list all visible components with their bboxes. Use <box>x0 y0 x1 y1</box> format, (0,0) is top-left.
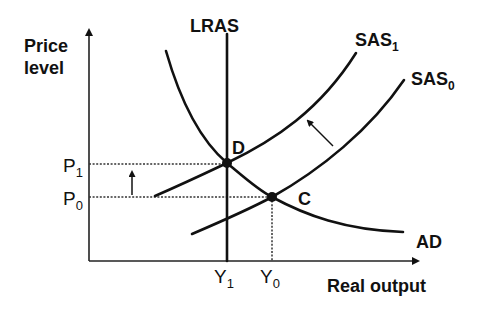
ad-as-diagram: Price level Real output LRAS AD SAS1 SAS… <box>0 0 486 310</box>
y-axis-label-line1: Price <box>24 36 68 56</box>
p0-label: P0 <box>63 188 83 213</box>
ad-curve <box>166 51 403 232</box>
y1-label: Y1 <box>214 266 234 291</box>
ad-label: AD <box>416 232 442 252</box>
lras-label: LRAS <box>190 16 239 36</box>
sas1-curve <box>155 53 356 196</box>
sas-shift-arrow <box>308 121 333 146</box>
sas0-label: SAS0 <box>411 69 455 93</box>
point-d <box>222 158 232 168</box>
y0-label: Y0 <box>260 266 280 291</box>
y-axis-label-line2: level <box>24 58 64 78</box>
p1-label: P1 <box>63 155 83 180</box>
sas1-label: SAS1 <box>355 30 399 54</box>
x-axis-label: Real output <box>327 276 426 296</box>
point-d-label: D <box>232 138 245 158</box>
point-c <box>267 192 277 202</box>
point-c-label: C <box>298 189 311 209</box>
